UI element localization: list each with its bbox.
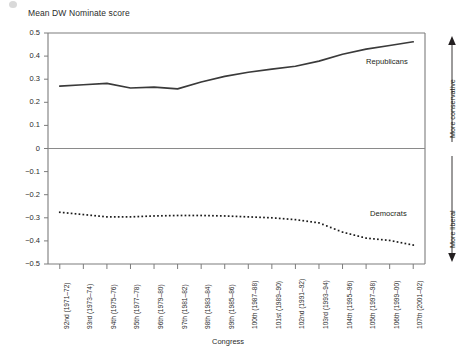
series-dot (287, 218, 289, 220)
x-axis-tick-label: 104th (1995–96) (346, 281, 353, 329)
series-dot (295, 219, 297, 221)
series-dot (106, 216, 108, 218)
y-axis-tick-label: 0 (14, 144, 40, 153)
series-dot (228, 215, 230, 217)
y-axis-tick-label: −0.3 (14, 213, 40, 222)
series-dot (173, 215, 175, 217)
y-axis-tick-label: 0.1 (14, 120, 40, 129)
chart-y-axis-title: Mean DW Nominate score (28, 8, 130, 18)
x-axis-tick-marks (60, 264, 413, 269)
series-dot (122, 216, 124, 218)
series-dot (181, 215, 183, 217)
series-dot (82, 214, 84, 216)
x-axis-tick-label: 101st (1989–90) (275, 281, 282, 329)
series-dot (161, 215, 163, 217)
series-dot (192, 215, 194, 217)
series-dot (137, 216, 139, 218)
series-dot (216, 215, 218, 217)
democrats-series-label: Democrats (370, 209, 407, 218)
series-dot (338, 230, 340, 232)
series-dot (314, 221, 316, 223)
republicans-series-label: Republicans (366, 57, 408, 66)
x-axis-tick-label: 96th (1979–80) (157, 284, 164, 329)
x-axis-tick-label: 95th (1977–78) (133, 284, 140, 329)
series-dot (114, 216, 116, 218)
series-dot (393, 240, 395, 242)
series-dot (275, 217, 277, 219)
y-axis-tick-label: −0.5 (14, 259, 40, 268)
more-conservative-note: More conservative (448, 79, 457, 138)
chart-figure: Mean DW Nominate score Congress 0.50.40.… (0, 0, 474, 354)
x-axis-tick-label: 97th (1981–82) (181, 284, 188, 329)
series-dot (405, 243, 407, 245)
x-axis-tick-label: 99th (1985–86) (228, 284, 235, 329)
series-dot (377, 238, 379, 240)
chart-canvas (0, 0, 474, 354)
series-dot (318, 222, 320, 224)
series-line-republicans (60, 42, 413, 89)
series-dot (63, 212, 65, 214)
series-dot (141, 216, 143, 218)
series-dot (263, 217, 265, 219)
series-dot (169, 215, 171, 217)
series-dot (306, 220, 308, 222)
series-dot (130, 216, 132, 218)
series-dot (271, 217, 273, 219)
series-dot (302, 220, 304, 222)
series-dot (94, 215, 96, 217)
series-dot (110, 216, 112, 218)
series-dot (267, 217, 269, 219)
series-dot (298, 219, 300, 221)
series-dot (334, 228, 336, 230)
series-dot (408, 243, 410, 245)
series-dot (185, 215, 187, 217)
y-axis-tick-label: 0.2 (14, 97, 40, 106)
series-dot (361, 236, 363, 238)
series-dot (59, 211, 61, 213)
series-dot (220, 215, 222, 217)
series-dot (224, 215, 226, 217)
y-axis-tick-label: −0.2 (14, 190, 40, 199)
series-dot (145, 215, 147, 217)
series-dot (157, 215, 159, 217)
series-dot (365, 237, 367, 239)
series-dot (200, 215, 202, 217)
series-dot (126, 216, 128, 218)
series-dot (350, 233, 352, 235)
series-dot (240, 216, 242, 218)
series-dot (118, 216, 120, 218)
series-dot (90, 214, 92, 216)
series-dot (330, 227, 332, 229)
y-axis-tick-label: −0.1 (14, 167, 40, 176)
series-dot (236, 216, 238, 218)
series-dot (283, 218, 285, 220)
y-axis-tick-marks (44, 33, 48, 264)
page-artifact-speck (9, 1, 17, 8)
series-dot (189, 215, 191, 217)
series-dot (322, 224, 324, 226)
series-dot (67, 212, 69, 214)
series-dot (244, 216, 246, 218)
x-axis-tick-label: 103rd (1993–94) (322, 280, 329, 329)
series-dot (86, 214, 88, 216)
x-axis-tick-label: 98th (1983–84) (204, 284, 211, 329)
series-dot (149, 215, 151, 217)
series-dot (247, 216, 249, 218)
x-axis-tick-label: 107th (2001–02) (416, 281, 423, 329)
series-dot (255, 216, 257, 218)
series-dot (212, 215, 214, 217)
series-dot (373, 238, 375, 240)
y-axis-tick-label: 0.3 (14, 74, 40, 83)
series-dot (401, 242, 403, 244)
series-dot (208, 215, 210, 217)
series-dot (369, 238, 371, 240)
series-dot (259, 216, 261, 218)
series-dot (153, 215, 155, 217)
series-dot (326, 225, 328, 227)
y-axis-tick-label: −0.4 (14, 236, 40, 245)
series-dot (346, 232, 348, 234)
x-axis-tick-label: 92nd (1971–72) (63, 282, 70, 329)
series-dot (342, 231, 344, 233)
series-dot (291, 218, 293, 220)
series-dot (389, 240, 391, 242)
